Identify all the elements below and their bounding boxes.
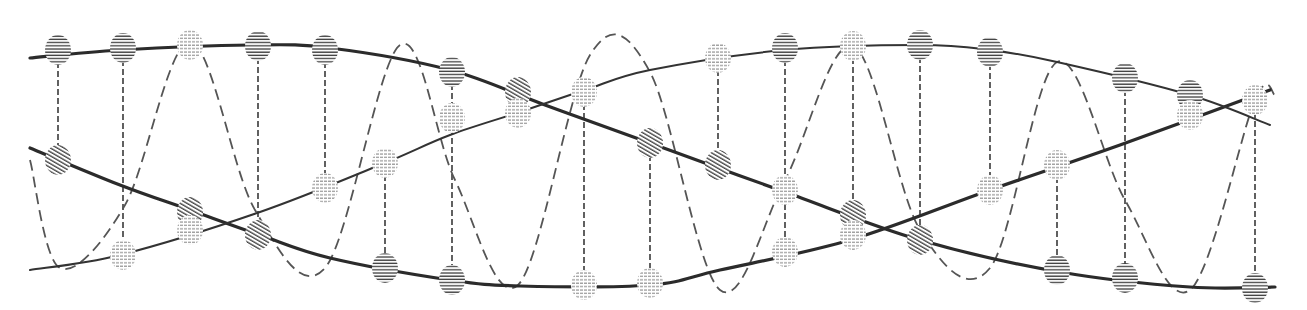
hatched-bead <box>571 270 597 300</box>
hatched-bead <box>312 35 338 65</box>
hatched-bead <box>245 31 271 61</box>
hatched-beads <box>45 30 1268 303</box>
hatched-bead <box>505 98 531 128</box>
hatched-bead <box>110 33 136 63</box>
hatched-bead <box>571 77 597 107</box>
hatched-bead <box>907 30 933 60</box>
dashed-sine-path <box>30 34 1275 292</box>
strand-upper-to-lower <box>30 45 1275 288</box>
hatched-bead <box>977 175 1003 205</box>
hatched-bead <box>907 225 933 255</box>
hatched-bead <box>439 265 465 295</box>
dashed-sine-curve <box>30 34 1275 292</box>
hatched-bead <box>1242 85 1268 115</box>
hatched-bead <box>372 148 398 178</box>
hatched-bead <box>245 220 271 250</box>
hatched-bead <box>772 237 798 267</box>
hatched-bead <box>840 220 866 250</box>
hatched-bead <box>772 33 798 63</box>
hatched-bead <box>1177 100 1203 130</box>
helix-strands <box>30 45 1275 288</box>
hatched-bead <box>1242 273 1268 303</box>
hatched-bead <box>110 240 136 270</box>
hatched-bead <box>705 43 731 73</box>
hatched-bead <box>312 173 338 203</box>
hatched-bead <box>977 37 1003 67</box>
hatched-bead <box>45 35 71 65</box>
hatched-bead <box>840 31 866 61</box>
hatched-bead <box>372 253 398 283</box>
hatched-bead <box>439 57 465 87</box>
hatched-bead <box>177 215 203 245</box>
hatched-bead <box>637 268 663 298</box>
hatched-bead <box>772 175 798 205</box>
dashed-connectors <box>58 57 1255 278</box>
hatched-bead <box>637 128 663 158</box>
hatched-bead <box>1112 263 1138 293</box>
hatched-bead <box>439 103 465 133</box>
helix-diagram <box>0 0 1307 310</box>
hatched-bead <box>177 30 203 60</box>
hatched-bead <box>45 145 71 175</box>
hatched-bead <box>1044 255 1070 285</box>
hatched-bead <box>1112 63 1138 93</box>
hatched-bead <box>705 150 731 180</box>
hatched-bead <box>1044 150 1070 180</box>
